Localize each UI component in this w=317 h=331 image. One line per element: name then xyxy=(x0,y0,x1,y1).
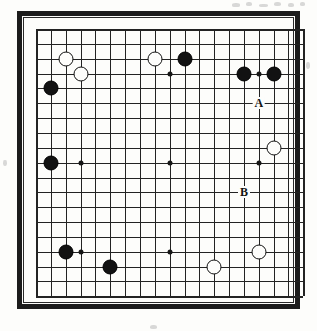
point-marker-b: B xyxy=(238,186,250,198)
grid-line-horizontal-18 xyxy=(36,296,303,298)
star-point-5 xyxy=(256,160,261,165)
stone-white-c8-r2[interactable] xyxy=(147,51,162,66)
star-point-7 xyxy=(167,249,172,254)
stone-black-c1-r4[interactable] xyxy=(43,81,58,96)
point-marker-a: A xyxy=(252,97,265,109)
stone-white-c12-r16[interactable] xyxy=(207,259,222,274)
scan-speckle-6 xyxy=(3,160,7,166)
stone-black-c1-r9[interactable] xyxy=(43,155,58,170)
grid-line-horizontal-13 xyxy=(36,222,303,223)
star-point-4 xyxy=(167,160,172,165)
scan-speckle-5 xyxy=(300,2,305,6)
grid-line-vertical-11 xyxy=(199,29,200,296)
star-point-2 xyxy=(256,71,261,76)
star-point-1 xyxy=(167,71,172,76)
diagram-page: AB xyxy=(0,0,317,331)
grid-line-vertical-18 xyxy=(303,29,305,296)
grid-line-vertical-13 xyxy=(229,29,230,296)
grid-line-vertical-12 xyxy=(214,29,215,296)
stone-white-c2-r2[interactable] xyxy=(58,51,73,66)
scan-speckle-8 xyxy=(150,325,157,329)
scan-speckle-2 xyxy=(259,4,268,7)
scan-speckle-0 xyxy=(232,3,240,7)
grid-line-horizontal-10 xyxy=(36,178,303,179)
scan-speckle-7 xyxy=(306,62,310,69)
star-point-6 xyxy=(78,249,83,254)
stone-black-c5-r16[interactable] xyxy=(103,259,118,274)
star-point-3 xyxy=(78,160,83,165)
stone-black-c14-r3[interactable] xyxy=(236,66,251,81)
stone-black-c16-r3[interactable] xyxy=(266,66,281,81)
scan-speckle-3 xyxy=(274,2,281,6)
stone-white-c16-r8[interactable] xyxy=(266,140,281,155)
grid-line-horizontal-12 xyxy=(36,207,303,208)
stone-black-c2-r15[interactable] xyxy=(58,244,73,259)
go-board-frame[interactable]: AB xyxy=(17,11,300,309)
grid-line-vertical-10 xyxy=(185,29,186,296)
scan-speckle-1 xyxy=(246,2,252,6)
stone-white-c15-r15[interactable] xyxy=(251,244,266,259)
grid-line-horizontal-14 xyxy=(36,237,303,238)
stone-white-c3-r3[interactable] xyxy=(73,66,88,81)
stone-black-c10-r2[interactable] xyxy=(177,51,192,66)
scan-speckle-4 xyxy=(288,3,294,7)
go-board-grid[interactable]: AB xyxy=(22,16,305,314)
grid-line-vertical-17 xyxy=(288,29,289,296)
grid-line-horizontal-11 xyxy=(36,192,303,193)
grid-line-horizontal-17 xyxy=(36,281,303,282)
grid-line-horizontal-16 xyxy=(36,267,303,268)
